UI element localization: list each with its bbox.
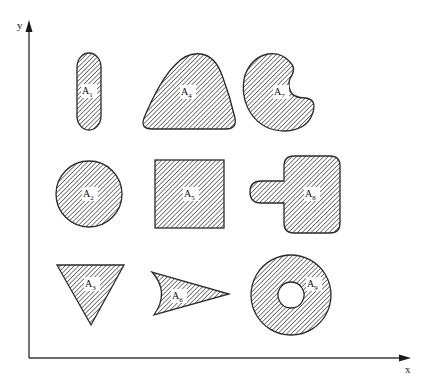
region-diagram: y x A1 A4 A7 A2 A5 A8 xyxy=(0,0,428,382)
region-a9: A9 xyxy=(251,255,331,335)
region-a2: A2 xyxy=(56,161,122,227)
region-a3: A3 xyxy=(57,265,124,325)
region-a6: A6 xyxy=(152,272,229,315)
region-a5: A5 xyxy=(155,160,224,228)
x-axis-label: x xyxy=(405,363,411,375)
region-a8: A8 xyxy=(250,156,340,233)
region-a4: A4 xyxy=(143,54,235,129)
region-a1: A1 xyxy=(77,53,101,130)
region-a7: A7 xyxy=(243,54,314,131)
y-axis-label: y xyxy=(17,19,23,31)
y-axis-arrow-icon xyxy=(26,20,33,32)
x-axis-arrow-icon xyxy=(399,355,411,362)
